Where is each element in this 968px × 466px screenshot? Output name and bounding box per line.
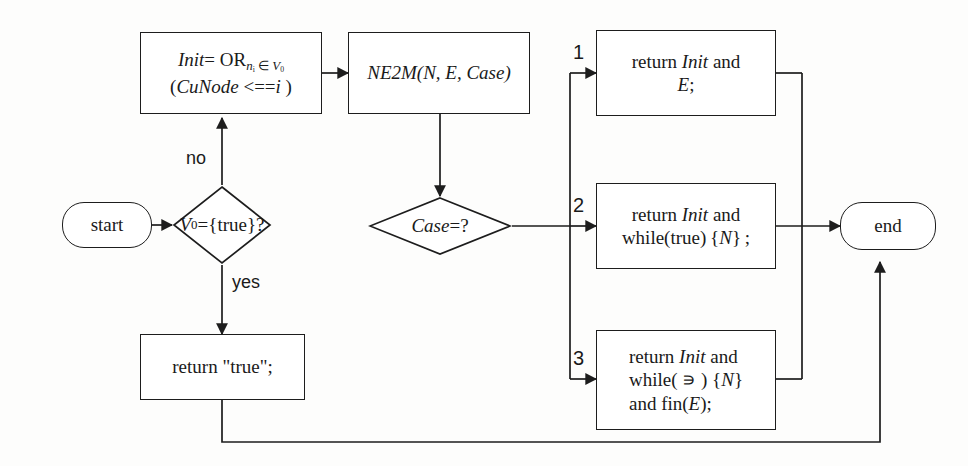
node-ne2m-text: NE2M(N, E, Case) bbox=[361, 61, 517, 84]
node-init-sub-v: V bbox=[272, 58, 280, 73]
node-case1-and: and bbox=[708, 51, 740, 72]
node-init-subscript: ni ∈ V0 bbox=[246, 58, 284, 73]
edge-label-yes: yes bbox=[232, 272, 260, 293]
node-case1-semicolon: ; bbox=[689, 74, 694, 95]
node-case3[interactable]: return Init and while( ∍ ) {N} and fin(E… bbox=[596, 330, 776, 430]
node-init-line2: (CuNode <==i ) bbox=[170, 75, 292, 98]
node-ne2m[interactable]: NE2M(N, E, Case) bbox=[348, 32, 530, 114]
decision-case-var: Case bbox=[411, 215, 449, 237]
decision-v0-rest: ={true}? bbox=[198, 214, 265, 236]
node-init-operator: <== bbox=[239, 76, 276, 97]
node-decision-case-label: Case=? bbox=[368, 196, 512, 256]
node-ne2m-args: (N, E, Case) bbox=[417, 62, 511, 83]
node-return-true-label: return "true"; bbox=[172, 355, 272, 378]
node-return-true[interactable]: return "true"; bbox=[140, 334, 305, 400]
node-case1-return-kw: return bbox=[632, 51, 682, 72]
node-decision-case[interactable]: Case=? bbox=[368, 196, 512, 256]
node-start-label: start bbox=[91, 214, 124, 236]
node-case3-while: while( ∍ ) { bbox=[629, 369, 721, 390]
node-case3-text: return Init and while( ∍ ) {N} and fin(E… bbox=[623, 345, 749, 415]
node-init-close-paren: ) bbox=[281, 76, 292, 97]
node-init-or: = OR bbox=[204, 49, 246, 70]
node-case1-e: E bbox=[678, 74, 690, 95]
node-case2-close: } ; bbox=[732, 227, 750, 248]
node-case3-return-kw: return bbox=[629, 346, 679, 367]
node-case3-and: and bbox=[705, 346, 737, 367]
node-init[interactable]: Init= ORni ∈ V0 (CuNode <==i ) bbox=[140, 32, 322, 114]
node-init-cunode: CuNode bbox=[176, 76, 238, 97]
node-case1-init: Init bbox=[682, 51, 708, 72]
node-decision-v0[interactable]: V0={true}? bbox=[172, 185, 272, 265]
node-start[interactable]: start bbox=[62, 202, 152, 248]
edge-label-no: no bbox=[186, 148, 206, 169]
node-case3-line1: return Init and bbox=[629, 345, 743, 368]
node-case3-line3: and fin(E); bbox=[629, 392, 743, 415]
edge-label-case-2: 2 bbox=[573, 194, 584, 217]
node-case3-line2: while( ∍ ) {N} bbox=[629, 368, 743, 391]
node-init-line1: Init= ORni ∈ V0 bbox=[170, 48, 292, 75]
edge-label-case-3: 3 bbox=[573, 347, 584, 370]
node-case3-e: E bbox=[689, 393, 701, 414]
node-case1-text: return Init and E; bbox=[626, 50, 747, 96]
node-case2-while: while(true) { bbox=[622, 227, 719, 248]
flowchart-canvas: start Init= ORni ∈ V0 (CuNode <==i ) NE2… bbox=[0, 0, 968, 466]
edge-label-case-1: 1 bbox=[573, 41, 584, 64]
node-case3-n: N bbox=[721, 369, 734, 390]
node-decision-v0-label: V0={true}? bbox=[172, 185, 272, 265]
node-init-sub-in: ∈ bbox=[255, 58, 272, 73]
node-case2-return-kw: return bbox=[632, 204, 682, 225]
node-case2-and: and bbox=[708, 204, 740, 225]
node-case3-end-paren: ); bbox=[700, 393, 712, 414]
node-init-sub-v-index: 0 bbox=[280, 65, 284, 74]
node-end-label: end bbox=[874, 215, 901, 237]
decision-case-rest: =? bbox=[449, 215, 468, 237]
edge-returntrue-to-end bbox=[222, 262, 880, 442]
node-case1-line2: E; bbox=[632, 73, 741, 96]
node-case1[interactable]: return Init and E; bbox=[596, 30, 776, 116]
node-case2[interactable]: return Init and while(true) {N} ; bbox=[596, 183, 776, 269]
node-init-text: Init= ORni ∈ V0 (CuNode <==i ) bbox=[164, 48, 298, 98]
node-case2-line2: while(true) {N} ; bbox=[622, 226, 750, 249]
node-case1-line1: return Init and bbox=[632, 50, 741, 73]
node-ne2m-name: NE2M bbox=[367, 62, 417, 83]
node-end[interactable]: end bbox=[840, 202, 936, 250]
node-case3-close-brace: } bbox=[734, 369, 743, 390]
node-case3-fin: and fin( bbox=[629, 393, 689, 414]
node-case3-init: Init bbox=[679, 346, 705, 367]
node-case2-init: Init bbox=[682, 204, 708, 225]
node-case2-n: N bbox=[719, 227, 732, 248]
node-init-init-word: Init bbox=[178, 49, 204, 70]
node-case2-text: return Init and while(true) {N} ; bbox=[616, 203, 756, 249]
decision-v0-var: V bbox=[180, 214, 192, 236]
node-case2-line1: return Init and bbox=[622, 203, 750, 226]
